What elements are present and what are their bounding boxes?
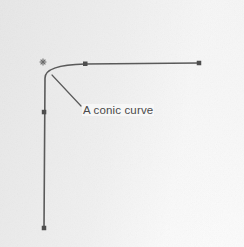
conic-curve-drawing bbox=[0, 0, 244, 247]
asterisk-start-marker-icon bbox=[40, 59, 47, 66]
control-point-bottom-endpoint[interactable] bbox=[42, 226, 47, 231]
conic-curve-path bbox=[44, 63, 199, 228]
annotation-label-conic-curve: A conic curve bbox=[82, 104, 154, 116]
annotation-leader-line bbox=[52, 75, 81, 106]
figure-canvas: A conic curve bbox=[0, 0, 244, 247]
control-point-right-endpoint[interactable] bbox=[197, 61, 202, 66]
control-point-top[interactable] bbox=[83, 62, 88, 67]
control-point-left[interactable] bbox=[42, 110, 47, 115]
